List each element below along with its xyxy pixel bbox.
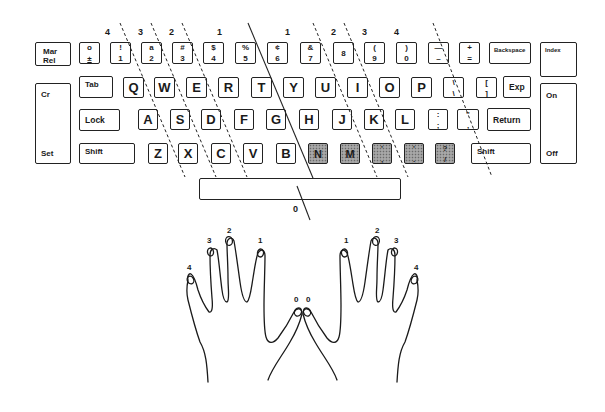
key-num-3-bottom: 3: [180, 53, 184, 64]
key-num-8-bottom: 8: [341, 48, 345, 59]
key-v[interactable]: V: [243, 143, 263, 164]
key-shift-right-label: Shift: [477, 147, 495, 156]
key-m[interactable]: M: [340, 143, 360, 164]
key-c[interactable]: C: [211, 143, 231, 164]
key-tab[interactable]: Tab: [79, 76, 113, 98]
left-finger-4-label: 4: [187, 263, 191, 272]
key-u[interactable]: U: [315, 77, 336, 98]
key-num-9[interactable]: (9: [364, 42, 385, 64]
key-k[interactable]: K: [364, 109, 384, 130]
key-q[interactable]: Q: [123, 77, 144, 98]
key-r[interactable]: R: [218, 77, 239, 98]
key-f-label: F: [235, 110, 253, 129]
key-num-10[interactable]: )0: [396, 42, 417, 64]
key-bracket[interactable]: []: [476, 77, 497, 98]
key-h[interactable]: H: [299, 109, 319, 130]
key-o-label: O: [380, 78, 399, 97]
key-num-7-top: &: [308, 42, 314, 53]
key-p[interactable]: P: [411, 77, 432, 98]
key-backslash[interactable]: \\: [443, 77, 464, 98]
key-shift-left[interactable]: Shift: [79, 143, 135, 164]
key-b[interactable]: B: [276, 143, 296, 164]
key-num-11-top: —: [435, 42, 443, 53]
key-p-label: P: [412, 78, 431, 97]
key-num-8[interactable]: 8: [333, 42, 354, 64]
key-r-label: R: [219, 78, 238, 97]
key-a[interactable]: A: [138, 109, 158, 130]
key-a-label: A: [139, 110, 157, 129]
key-t[interactable]: T: [251, 77, 272, 98]
key-spacebar[interactable]: [199, 178, 401, 200]
key-num-12-bottom: =: [467, 53, 472, 64]
key-backslash-top: \: [452, 77, 454, 88]
key-y[interactable]: Y: [283, 77, 304, 98]
key-off-label: Off: [546, 149, 558, 158]
key-num-2[interactable]: a2: [141, 42, 162, 64]
left-finger-3-label: 3: [207, 236, 211, 245]
key-quote-top: ": [466, 109, 470, 120]
key-s[interactable]: S: [170, 109, 190, 130]
key-slash-top: ?: [443, 143, 448, 154]
key-comma[interactable]: ',: [372, 143, 392, 164]
key-backspace[interactable]: Backspace: [489, 42, 531, 64]
key-num-3[interactable]: #3: [172, 42, 193, 64]
key-w[interactable]: W: [154, 77, 175, 98]
key-cr-set[interactable]: Cr Set: [35, 83, 71, 164]
key-period-top: ': [413, 143, 415, 154]
key-j[interactable]: J: [332, 109, 352, 130]
key-num-3-top: #: [180, 42, 184, 53]
key-slash-bottom: /: [444, 154, 446, 165]
key-num-12[interactable]: +=: [459, 42, 480, 64]
key-num-5-top: %: [242, 42, 249, 53]
key-x[interactable]: X: [178, 143, 198, 164]
key-exp-label: Exp: [509, 82, 525, 92]
right-finger-1-label: 1: [344, 236, 348, 245]
key-g[interactable]: G: [266, 109, 286, 130]
key-num-6[interactable]: ¢6: [267, 42, 288, 64]
key-e[interactable]: E: [186, 77, 207, 98]
key-b-label: B: [277, 144, 295, 163]
key-num-11[interactable]: —–: [428, 42, 449, 64]
key-num-7[interactable]: &7: [300, 42, 321, 64]
key-bracket-top: [: [485, 77, 488, 88]
right-hand-outline: [303, 238, 418, 382]
left-nail-1: [257, 249, 264, 258]
key-num-4-top: $: [211, 42, 215, 53]
key-slash[interactable]: ?/: [435, 143, 455, 164]
key-x-label: X: [179, 144, 197, 163]
right-thumb-label: 0: [306, 295, 310, 304]
key-index-label: Index: [545, 47, 561, 53]
left-hand-outline: [187, 238, 302, 382]
key-comma-bottom: ,: [381, 154, 383, 165]
key-num-2-bottom: 2: [149, 53, 153, 64]
key-mar-rel[interactable]: Mar Rel: [35, 42, 71, 66]
key-i[interactable]: I: [347, 77, 368, 98]
key-o[interactable]: O: [379, 77, 400, 98]
key-period[interactable]: '.: [404, 143, 424, 164]
key-return[interactable]: Return: [487, 108, 531, 131]
key-num-1[interactable]: !1: [110, 42, 131, 64]
key-shift-right[interactable]: Shift: [471, 143, 531, 164]
key-f[interactable]: F: [234, 109, 254, 130]
key-num-5[interactable]: %5: [235, 42, 256, 64]
key-exp[interactable]: Exp: [503, 76, 531, 98]
key-j-label: J: [333, 110, 351, 129]
key-on-off[interactable]: On Off: [540, 83, 577, 164]
key-index[interactable]: Index: [540, 42, 577, 77]
key-quote[interactable]: ",: [457, 109, 479, 130]
key-i-label: I: [348, 78, 367, 97]
key-l[interactable]: L: [395, 109, 415, 130]
key-lock[interactable]: Lock: [79, 109, 120, 131]
key-semicolon[interactable]: :;: [428, 109, 448, 130]
key-num-1-bottom: 1: [118, 53, 122, 64]
key-num-4[interactable]: $4: [203, 42, 224, 64]
key-num-0[interactable]: o±: [79, 42, 100, 64]
key-d[interactable]: D: [201, 109, 221, 130]
key-z[interactable]: Z: [148, 143, 168, 164]
left-thumb-label: 0: [294, 295, 298, 304]
key-k-label: K: [365, 110, 383, 129]
key-semicolon-top: :: [437, 109, 440, 120]
key-set-label: Set: [41, 149, 53, 158]
key-n[interactable]: N: [308, 143, 328, 164]
zone-label-right-2: 2: [331, 27, 336, 37]
